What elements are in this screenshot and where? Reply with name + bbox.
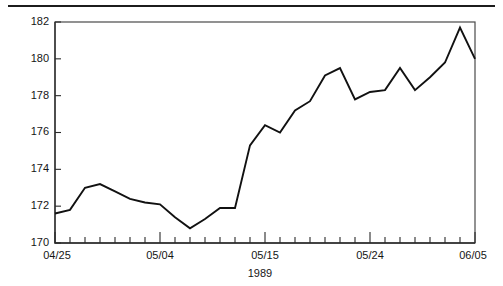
x-axis-tick-label: 06/05 <box>459 249 487 261</box>
x-axis-tick-label: 05/04 <box>146 249 174 261</box>
y-axis-tick-labels: 170172174176178180182 <box>31 15 49 248</box>
y-axis-tick-label: 174 <box>31 162 49 174</box>
axis-lines <box>55 22 475 243</box>
chart-figure: 170172174176178180182 04/2505/0405/1505/… <box>0 0 503 286</box>
data-line-value <box>55 28 475 229</box>
data-series-group <box>55 28 475 229</box>
y-axis-tick-label: 182 <box>31 15 49 27</box>
plot-area-border <box>55 22 475 243</box>
y-axis-tick-label: 170 <box>31 236 49 248</box>
x-axis-tick-label: 04/25 <box>43 249 71 261</box>
y-axis-tick-label: 176 <box>31 125 49 137</box>
y-axis-tick-label: 180 <box>31 52 49 64</box>
x-axis-tick-labels: 04/2505/0405/1505/2406/05 <box>43 249 487 261</box>
x-axis-tick-label: 05/15 <box>251 249 279 261</box>
plot-frame <box>55 22 475 243</box>
x-axis-ticks <box>55 232 475 243</box>
x-axis-title: 1989 <box>248 267 272 279</box>
line-chart-svg: 170172174176178180182 04/2505/0405/1505/… <box>0 0 503 286</box>
y-axis-tick-label: 178 <box>31 89 49 101</box>
y-axis-tick-label: 172 <box>31 199 49 211</box>
y-axis-ticks <box>55 22 61 243</box>
x-axis-tick-label: 05/24 <box>356 249 384 261</box>
